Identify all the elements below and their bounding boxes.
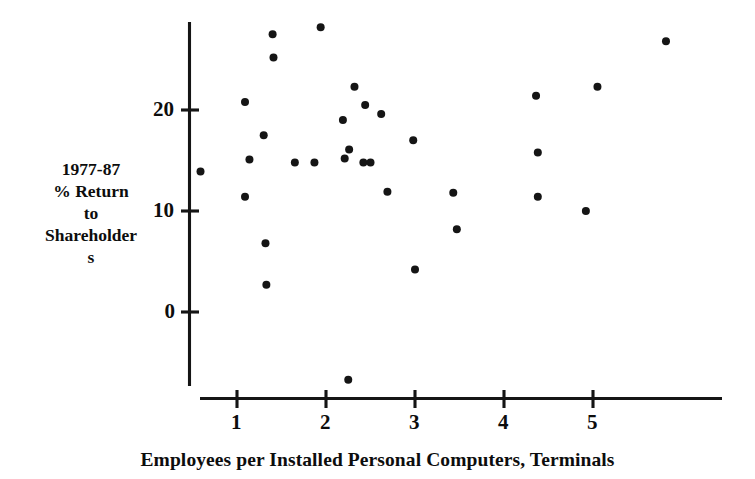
x-tick-label: 1	[231, 412, 242, 433]
x-tick-label: 3	[409, 412, 420, 433]
x-axis-title: Employees per Installed Personal Compute…	[0, 449, 755, 471]
data-point	[662, 37, 670, 45]
data-point	[532, 92, 540, 100]
data-point	[350, 83, 358, 91]
data-point	[341, 154, 349, 162]
data-point	[261, 239, 269, 247]
data-point	[409, 136, 417, 144]
data-point	[241, 98, 249, 106]
data-point	[245, 155, 253, 163]
ticks-group	[181, 110, 593, 408]
data-point	[262, 281, 270, 289]
data-point	[269, 53, 277, 61]
data-point	[339, 116, 347, 124]
x-tick-label: 5	[587, 412, 598, 433]
data-point	[449, 189, 457, 197]
x-tick-label: 4	[498, 412, 509, 433]
data-point	[411, 266, 419, 274]
axes-group	[190, 22, 723, 399]
y-tick-label: 20	[153, 99, 174, 120]
data-point	[197, 168, 205, 176]
data-point	[317, 23, 325, 31]
y-tick-label: 0	[165, 301, 176, 322]
data-point	[453, 225, 461, 233]
data-point	[361, 101, 369, 109]
data-point	[534, 148, 542, 156]
scatter-chart: 1977-87 % Return to Shareholder s 123450…	[0, 0, 755, 479]
data-point	[377, 110, 385, 118]
data-point	[345, 145, 353, 153]
plot-area	[0, 0, 755, 479]
data-point	[241, 193, 249, 201]
data-point	[383, 188, 391, 196]
data-point	[582, 207, 590, 215]
data-point	[291, 159, 299, 167]
data-point	[310, 159, 318, 167]
data-point	[367, 159, 375, 167]
data-point	[534, 193, 542, 201]
y-tick-label: 10	[153, 200, 174, 221]
data-points-group	[197, 23, 670, 383]
data-point	[344, 376, 352, 384]
data-point	[593, 83, 601, 91]
data-point	[269, 30, 277, 38]
x-tick-label: 2	[320, 412, 331, 433]
data-point	[359, 159, 367, 167]
data-point	[260, 131, 268, 139]
